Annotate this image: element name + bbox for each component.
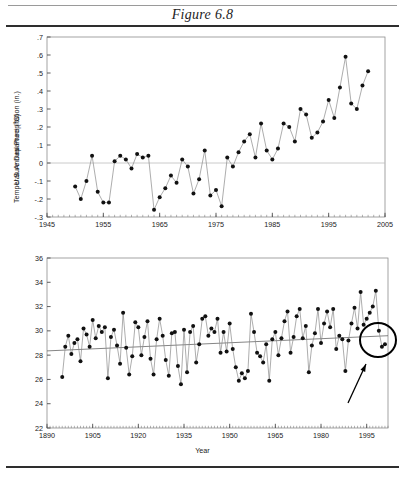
data-point — [79, 197, 83, 201]
data-point — [173, 330, 177, 334]
data-point — [289, 351, 293, 355]
data-point — [343, 369, 347, 373]
data-point — [164, 358, 168, 362]
data-point — [163, 186, 167, 190]
data-point — [319, 341, 323, 345]
data-point — [220, 204, 224, 208]
data-point — [78, 359, 82, 363]
data-series-line — [75, 57, 368, 210]
data-point — [349, 102, 353, 106]
y-axis-tick-label: .5 — [37, 69, 43, 78]
data-point — [179, 382, 183, 386]
data-point — [139, 353, 143, 357]
y-axis-tick-label: .3 — [37, 105, 43, 114]
data-point — [264, 342, 268, 346]
rule-under-title — [6, 25, 399, 27]
data-point — [322, 322, 326, 326]
data-point — [203, 148, 207, 152]
chart-temperature-svg: 1945195519651975198519952005-.3-.2-.10.1… — [0, 30, 405, 245]
data-point — [121, 311, 125, 315]
x-axis-tick-label: 1955 — [95, 220, 111, 229]
data-point — [107, 201, 111, 205]
y-axis-tick-label: -.2 — [35, 195, 43, 204]
data-point — [69, 352, 73, 356]
data-point — [359, 290, 363, 294]
data-point — [103, 325, 107, 329]
data-point — [374, 289, 378, 293]
data-point — [261, 360, 265, 364]
data-point — [63, 345, 67, 349]
data-point — [304, 324, 308, 328]
y-axis-tick-label: .4 — [37, 87, 43, 96]
data-point — [130, 166, 134, 170]
data-point — [75, 337, 79, 341]
data-point — [191, 324, 195, 328]
y-axis-tick-label: .6 — [37, 51, 43, 60]
data-point — [167, 374, 171, 378]
data-point — [118, 154, 122, 158]
data-point — [136, 325, 140, 329]
data-point — [176, 364, 180, 368]
data-point — [286, 309, 290, 313]
data-point — [146, 154, 150, 158]
data-point — [383, 342, 387, 346]
data-point — [321, 120, 325, 124]
x-axis-tick-label: 1975 — [208, 220, 224, 229]
data-point — [97, 324, 101, 328]
data-point — [316, 307, 320, 311]
data-point — [310, 343, 314, 347]
data-point — [73, 184, 77, 188]
data-point — [225, 350, 229, 354]
y-axis-tick-label: 0 — [39, 159, 43, 168]
data-point — [124, 157, 128, 161]
data-point — [331, 307, 335, 311]
x-axis-tick-label: 1980 — [313, 431, 329, 440]
data-point — [101, 201, 105, 205]
data-point — [304, 112, 308, 116]
data-point — [365, 317, 369, 321]
data-point — [152, 208, 156, 212]
figure-container: Figure 6.8 1945195519651975198519952005-… — [0, 0, 405, 478]
data-point — [182, 328, 186, 332]
data-point — [243, 376, 247, 380]
data-point — [360, 84, 364, 88]
data-point — [127, 373, 131, 377]
data-point — [72, 341, 76, 345]
data-point — [209, 326, 213, 330]
data-point — [255, 351, 259, 355]
x-axis-tick-label: 1995 — [321, 220, 337, 229]
data-point — [368, 311, 372, 315]
data-point — [216, 317, 220, 321]
data-point — [346, 339, 350, 343]
pointer-arrow-head — [360, 364, 366, 372]
data-point — [141, 156, 145, 160]
y-axis-tick-label: 30 — [35, 326, 43, 335]
y-axis-tick-label: 26 — [35, 375, 43, 384]
data-point — [246, 369, 250, 373]
data-point — [96, 190, 100, 194]
data-point — [270, 157, 274, 161]
chart-temperature-departure: 1945195519651975198519952005-.3-.2-.10.1… — [0, 30, 405, 245]
data-point — [298, 307, 302, 311]
data-point — [115, 343, 119, 347]
data-point — [84, 179, 88, 183]
data-point — [231, 347, 235, 351]
data-point — [242, 139, 246, 143]
y-axis-tick-label: .7 — [37, 33, 43, 42]
y-axis-tick-label: 36 — [35, 254, 43, 263]
x-axis-tick-label: 1985 — [264, 220, 280, 229]
data-point — [287, 125, 291, 129]
chart-precipitation: 1890190519201935195019651980199522242628… — [0, 248, 405, 463]
data-point — [155, 337, 159, 341]
data-point — [109, 335, 113, 339]
data-point — [197, 342, 201, 346]
x-axis-tick-label: 1995 — [359, 431, 375, 440]
x-axis-tick-label: 1965 — [152, 220, 168, 229]
data-point — [279, 336, 283, 340]
chart-precipitation-svg: 1890190519201935195019651980199522242628… — [0, 248, 405, 463]
data-point — [158, 195, 162, 199]
data-point — [252, 330, 256, 334]
data-point — [212, 330, 216, 334]
data-point — [334, 347, 338, 351]
y-axis-tick-label: -.1 — [35, 177, 43, 186]
